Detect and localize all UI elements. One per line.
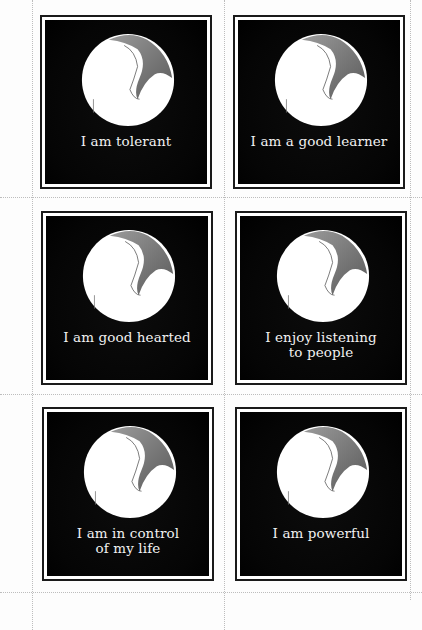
moon-orb-icon xyxy=(273,32,369,128)
card-artwork: I am good hearted xyxy=(46,216,208,380)
moon-orb-icon xyxy=(80,32,176,128)
affirmation-card: I am tolerant xyxy=(40,15,212,189)
caption-line: of my life xyxy=(47,541,209,556)
caption-line: to people xyxy=(240,345,402,360)
cut-line-vertical-right xyxy=(410,0,411,600)
affirmation-text: I enjoy listening to people xyxy=(240,330,402,360)
affirmation-text: I am powerful xyxy=(240,526,402,541)
card-artwork: I am powerful xyxy=(240,412,402,576)
card-artwork: I am in control of my life xyxy=(47,412,209,576)
worksheet-page: I am tolerant I am a good learner xyxy=(0,0,422,630)
affirmation-card: I am in control of my life xyxy=(42,407,214,581)
card-artwork: I am tolerant xyxy=(45,20,207,184)
affirmation-card: I am good hearted xyxy=(41,211,213,385)
cut-line-horizontal-1 xyxy=(0,197,422,198)
moon-orb-icon xyxy=(275,228,371,324)
moon-orb-icon xyxy=(82,424,178,520)
card-artwork: I enjoy listening to people xyxy=(240,216,402,380)
caption-line: I enjoy listening xyxy=(240,330,402,345)
caption-line: I am a good learner xyxy=(238,134,400,149)
moon-orb-icon xyxy=(81,228,177,324)
affirmation-text: I am a good learner xyxy=(238,134,400,149)
affirmation-card: I am powerful xyxy=(235,407,407,581)
affirmation-card: I enjoy listening to people xyxy=(235,211,407,385)
cut-line-horizontal-2 xyxy=(0,394,422,395)
caption-line: I am in control xyxy=(47,526,209,541)
cut-line-horizontal-3 xyxy=(0,592,422,593)
card-artwork: I am a good learner xyxy=(238,20,400,184)
caption-line: I am tolerant xyxy=(45,134,207,149)
caption-line: I am powerful xyxy=(240,526,402,541)
affirmation-card: I am a good learner xyxy=(233,15,405,189)
cut-line-vertical-left xyxy=(32,0,33,630)
caption-line: I am good hearted xyxy=(46,330,208,345)
affirmation-text: I am tolerant xyxy=(45,134,207,149)
moon-orb-icon xyxy=(275,424,371,520)
cut-line-vertical-middle xyxy=(224,0,225,630)
affirmation-text: I am in control of my life xyxy=(47,526,209,556)
affirmation-text: I am good hearted xyxy=(46,330,208,345)
